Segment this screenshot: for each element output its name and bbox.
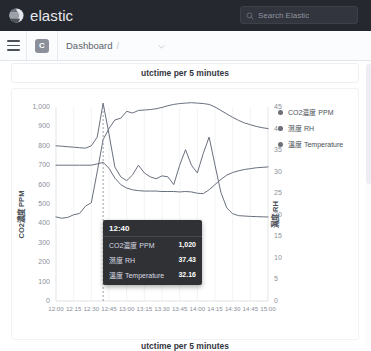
toolbar-divider-2 (57, 31, 58, 60)
y-tick-left: 300 (20, 239, 50, 246)
y-tick-right: 25 (274, 189, 282, 196)
x-tick: 13:30 (154, 305, 169, 312)
x-tick: 14:30 (225, 305, 240, 312)
breadcrumb-dashboard[interactable]: Dashboard (66, 40, 112, 51)
space-avatar[interactable]: C (35, 39, 49, 53)
chart-legend[interactable]: CO2濃度 PPM 濕度 RH 溫度 Temperature (278, 107, 343, 149)
y-tick-right: 30 (274, 168, 282, 175)
global-topbar: elastic Search Elastic (0, 0, 371, 31)
y-tick-left: 200 (20, 258, 50, 265)
brand-name: elastic (30, 7, 73, 24)
app-breadcrumb-bar: C Dashboard / (0, 31, 371, 61)
legend-label-temperature: 溫度 Temperature (288, 139, 343, 149)
x-tick: 12:15 (66, 305, 81, 312)
dashboard-panel-header: utctime per 5 minutes (11, 63, 359, 83)
x-tick: 12:30 (84, 305, 99, 312)
legend-swatch-icon (278, 110, 283, 115)
panel-title: utctime per 5 minutes (141, 68, 229, 78)
x-tick: 15:00 (260, 305, 275, 312)
x-axis-title: utctime per 5 minutes (12, 341, 358, 351)
y-tick-left: 100 (20, 278, 50, 285)
elastic-logo-icon (9, 8, 24, 23)
x-tick: 13:45 (172, 305, 187, 312)
tooltip-row-co2: CO2濃度 PPM 1,020 (103, 237, 202, 252)
global-search-input[interactable]: Search Elastic (240, 6, 358, 24)
y-tick-left: 800 (20, 142, 50, 149)
tooltip-value-temperature: 32.16 (178, 271, 196, 278)
x-tick: 12:00 (48, 305, 63, 312)
tooltip-time: 12:40 (103, 220, 202, 237)
y-tick-right: 5 (274, 275, 278, 282)
tooltip-label-humidity: 濕度 RH (109, 255, 174, 265)
legend-item-humidity[interactable]: 濕度 RH (278, 123, 343, 133)
breadcrumb-divider: / (116, 40, 119, 51)
legend-label-humidity: 濕度 RH (288, 123, 314, 133)
legend-item-co2[interactable]: CO2濃度 PPM (278, 107, 343, 117)
x-tick: 14:00 (190, 305, 205, 312)
tooltip-value-co2: 1,020 (178, 241, 196, 248)
legend-label-co2: CO2濃度 PPM (288, 107, 334, 117)
y-tick-left: 600 (20, 181, 50, 188)
y-tick-right: 20 (274, 211, 282, 218)
chart-area[interactable]: CO2濃度 PPM 濕度 RH 010020030040050060070080… (12, 89, 358, 339)
chart-tooltip: 12:40 CO2濃度 PPM 1,020 濕度 RH 37.43 溫度 Tem… (103, 220, 202, 285)
x-tick: 13:00 (119, 305, 134, 312)
x-tick: 13:15 (137, 305, 152, 312)
search-icon (246, 6, 254, 24)
x-tick: 12:45 (101, 305, 116, 312)
tooltip-label-co2: CO2濃度 PPM (109, 240, 174, 250)
y-tick-right: 15 (274, 232, 282, 239)
y-tick-left: 400 (20, 219, 50, 226)
chart-panel: CO2濃度 PPM 濕度 RH 010020030040050060070080… (11, 88, 359, 340)
x-tick: 14:15 (207, 305, 222, 312)
page-scrollbar-thumb[interactable] (366, 64, 371, 184)
y-tick-left: 500 (20, 200, 50, 207)
x-tick: 14:45 (243, 305, 258, 312)
legend-swatch-icon (278, 142, 283, 147)
brand[interactable]: elastic (9, 7, 73, 24)
legend-swatch-icon (278, 126, 283, 131)
tooltip-value-humidity: 37.43 (178, 256, 196, 263)
toolbar-divider (26, 31, 27, 60)
tooltip-label-temperature: 溫度 Temperature (109, 270, 174, 280)
y-tick-left: 1,000 (20, 103, 50, 110)
hamburger-menu-icon[interactable] (0, 31, 26, 60)
y-tick-right: 10 (274, 254, 282, 261)
y-tick-right: 0 (274, 297, 278, 304)
chevron-down-icon[interactable] (157, 37, 166, 55)
global-search-placeholder: Search Elastic (258, 11, 309, 20)
y-tick-left: 700 (20, 161, 50, 168)
y-tick-left: 0 (20, 297, 50, 304)
legend-item-temperature[interactable]: 溫度 Temperature (278, 139, 343, 149)
y-tick-left: 900 (20, 122, 50, 129)
tooltip-row-humidity: 濕度 RH 37.43 (103, 252, 202, 267)
tooltip-row-temperature: 溫度 Temperature 32.16 (103, 267, 202, 282)
